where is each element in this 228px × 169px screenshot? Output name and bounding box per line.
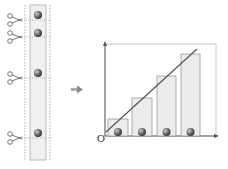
right-arrow-icon [71, 86, 83, 94]
ball-marker [34, 129, 42, 137]
scissors-icon [8, 72, 22, 85]
ball-marker [34, 11, 42, 19]
bar-chart [103, 41, 219, 138]
ball-marker [34, 69, 42, 77]
bar [157, 76, 176, 136]
bar [181, 54, 200, 136]
ball-marker [187, 128, 195, 136]
origin-label: O [97, 133, 105, 144]
diagram-canvas [0, 0, 228, 169]
ball-marker [34, 29, 42, 37]
scissors-icon [8, 14, 22, 27]
tape-strip [18, 5, 52, 160]
ball-marker [163, 128, 171, 136]
ball-marker [138, 128, 146, 136]
scissors-icon [8, 132, 22, 145]
ball-marker [114, 128, 122, 136]
scissors-icon [8, 31, 22, 44]
